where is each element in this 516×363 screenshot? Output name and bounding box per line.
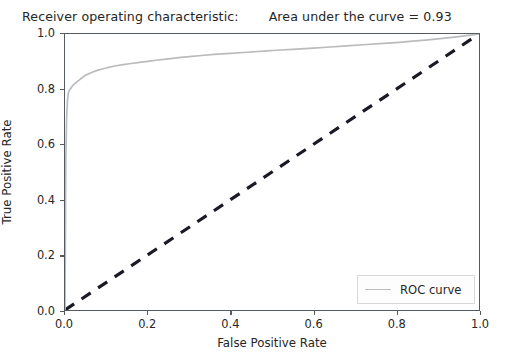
- chart-legend: ROC curve: [357, 275, 475, 304]
- y-tick-mark: [60, 33, 64, 34]
- x-tick-label: 0.8: [388, 317, 406, 331]
- plot-svg: [65, 34, 479, 310]
- x-tick-mark: [480, 311, 481, 315]
- x-tick-mark: [314, 311, 315, 315]
- plot-area: [64, 33, 480, 311]
- y-tick-label: 0.2: [37, 248, 55, 262]
- x-axis-label: False Positive Rate: [64, 336, 480, 350]
- y-tick-label: 0.4: [37, 193, 55, 207]
- x-tick-label: 0.4: [221, 317, 239, 331]
- legend-swatch-roc-curve: [365, 289, 391, 290]
- x-tick-mark: [397, 311, 398, 315]
- y-tick-label: 0.0: [37, 304, 55, 318]
- page-title: Receiver operating characteristic:: [22, 9, 239, 24]
- y-tick-mark: [60, 311, 64, 312]
- auc-annotation: Area under the curve = 0.93: [269, 9, 452, 24]
- y-tick-label: 1.0: [37, 26, 55, 40]
- chance-diagonal-line: [65, 34, 479, 310]
- y-tick-mark: [60, 255, 64, 256]
- y-tick-label: 0.6: [37, 137, 55, 151]
- roc-chart-figure: Receiver operating characteristic: Area …: [0, 0, 516, 363]
- y-axis-label: True Positive Rate: [0, 33, 18, 311]
- x-tick-mark: [230, 311, 231, 315]
- x-tick-mark: [147, 311, 148, 315]
- x-tick-label: 0.6: [305, 317, 323, 331]
- y-tick-mark: [60, 144, 64, 145]
- y-tick-label: 0.8: [37, 82, 55, 96]
- y-tick-mark: [60, 89, 64, 90]
- chart-title-row: Receiver operating characteristic: Area …: [22, 6, 502, 26]
- x-tick-label: 0.0: [55, 317, 73, 331]
- x-tick-mark: [64, 311, 65, 315]
- legend-label-roc-curve: ROC curve: [400, 283, 461, 297]
- y-tick-mark: [60, 200, 64, 201]
- x-tick-label: 0.2: [138, 317, 156, 331]
- x-tick-label: 1.0: [471, 317, 489, 331]
